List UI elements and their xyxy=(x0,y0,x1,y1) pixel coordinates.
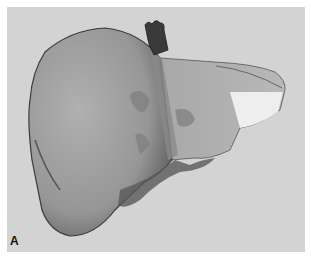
right-lobe xyxy=(29,28,172,236)
liver-rendering xyxy=(0,0,311,258)
panel-label: A xyxy=(10,234,19,248)
